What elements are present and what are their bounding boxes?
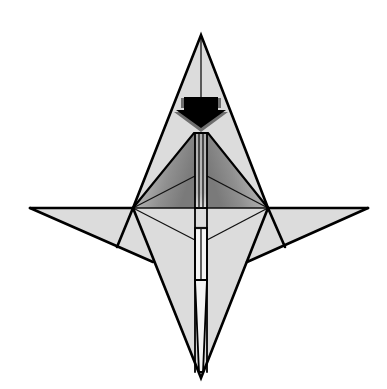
origami-diagram [0, 0, 387, 389]
center-strip [195, 133, 207, 372]
